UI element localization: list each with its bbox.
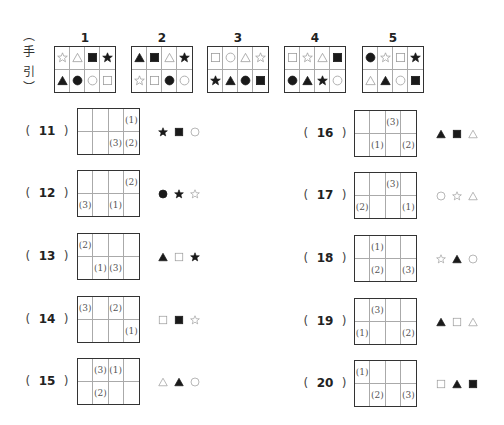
question-cell [124, 257, 139, 280]
star-outline-icon [452, 191, 462, 201]
question-cell: (3) [109, 257, 124, 280]
reference-cell [70, 70, 85, 93]
circle-outline-icon [332, 75, 343, 86]
question-cell [386, 259, 401, 282]
question-cell [109, 320, 124, 343]
question-cell: (2) [78, 234, 93, 257]
reference-cell [85, 47, 100, 70]
circle-outline-icon [190, 127, 200, 137]
question-cell [386, 134, 401, 157]
square-outline-icon [158, 315, 168, 325]
question-cell [78, 132, 93, 155]
paren-close: ) [342, 126, 347, 140]
hint-label: ︵ 手 引 ︶ [22, 28, 36, 96]
question-number: ( 15 ) [22, 374, 72, 388]
question-cell: (2) [355, 196, 370, 219]
reference-grid-5 [362, 46, 424, 93]
reference-number: 5 [362, 31, 424, 45]
question-cell [386, 196, 401, 219]
question-number-text: 20 [317, 376, 334, 390]
star-filled-icon [210, 75, 221, 86]
question-cell [109, 171, 124, 194]
paren-close: ) [342, 188, 347, 202]
paren-open: ( [304, 126, 309, 140]
reference-cell [223, 70, 238, 93]
question-cell [109, 382, 124, 405]
question-symbols [158, 315, 200, 325]
paren-open: ( [26, 312, 31, 326]
question-symbols [158, 252, 200, 262]
question-cell: (2) [401, 134, 416, 157]
hint-char-2: 引 [22, 64, 36, 80]
circle-outline-icon [87, 75, 98, 86]
reference-cell [408, 47, 423, 70]
star-filled-icon [317, 75, 328, 86]
question-cell: (2) [124, 132, 139, 155]
reference-cell [253, 70, 268, 93]
question-grid-14: (3)(2)(1) [77, 296, 140, 343]
reference-cell [253, 47, 268, 70]
question-number: ( 17 ) [300, 188, 350, 202]
question-cell [93, 297, 108, 320]
question-grid-16: (3)(1)(2) [354, 110, 417, 157]
reference-cell [55, 70, 70, 93]
square-outline-icon [149, 75, 160, 86]
question-grid-19: (3)(1)(2) [354, 298, 417, 345]
question-cell [78, 109, 93, 132]
star-outline-icon [57, 52, 68, 63]
star-filled-icon [410, 52, 421, 63]
question-cell [386, 299, 401, 322]
question-cell [355, 236, 370, 259]
question-cell: (3) [93, 359, 108, 382]
question-cell: (1) [124, 109, 139, 132]
question-cell: (2) [370, 259, 385, 282]
triangle-outline-icon [240, 52, 251, 63]
star-outline-icon [255, 52, 266, 63]
reference-cell [408, 70, 423, 93]
square-filled-icon [87, 52, 98, 63]
question-cell [93, 234, 108, 257]
question-cell [386, 236, 401, 259]
question-cell [109, 109, 124, 132]
question-cell [355, 134, 370, 157]
paren-open: ( [304, 314, 309, 328]
triangle-filled-icon [225, 75, 236, 86]
triangle-outline-icon [365, 75, 376, 86]
question-cell: (1) [355, 322, 370, 345]
question-symbols [436, 191, 478, 201]
reference-cell [70, 47, 85, 70]
question-cell: (3) [401, 384, 416, 407]
question-grid-15: (3)(1)(2) [77, 358, 140, 405]
paren-close: ) [64, 374, 69, 388]
star-filled-icon [179, 52, 190, 63]
question-grid-11: (1)(3)(2) [77, 108, 140, 155]
reference-cell [330, 70, 345, 93]
reference-cell [100, 47, 115, 70]
square-filled-icon [255, 75, 266, 86]
question-cell [124, 234, 139, 257]
question-cell [386, 384, 401, 407]
question-number: ( 11 ) [22, 124, 72, 138]
reference-cell [378, 70, 393, 93]
circle-filled-icon [164, 75, 175, 86]
circle-filled-icon [158, 189, 168, 199]
circle-outline-icon [436, 191, 446, 201]
reference-cell [147, 47, 162, 70]
question-cell [124, 382, 139, 405]
square-filled-icon [149, 52, 160, 63]
reference-cell [363, 70, 378, 93]
square-outline-icon [174, 252, 184, 262]
square-filled-icon [468, 379, 478, 389]
question-cell [78, 359, 93, 382]
question-number-text: 18 [317, 251, 334, 265]
question-number-text: 12 [39, 186, 56, 200]
reference-grid-2 [131, 46, 193, 93]
triangle-outline-icon [317, 52, 328, 63]
question-cell [355, 173, 370, 196]
triangle-filled-icon [436, 317, 446, 327]
question-cell: (1) [124, 320, 139, 343]
paren-open: ( [26, 249, 31, 263]
question-cell: (1) [401, 196, 416, 219]
star-outline-icon [302, 52, 313, 63]
question-cell [78, 382, 93, 405]
